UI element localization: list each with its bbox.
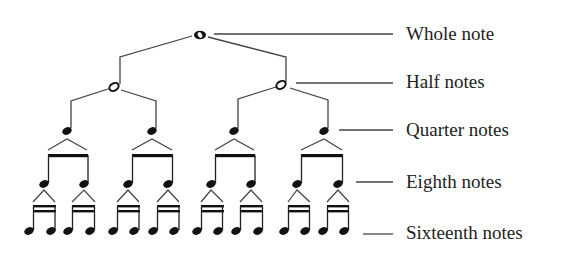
sixteenth-note-beams bbox=[33, 205, 349, 212]
eighth-note-stems bbox=[49, 155, 343, 183]
label-whole-note: Whole note bbox=[406, 24, 494, 43]
connector-lines bbox=[71, 36, 328, 128]
label-sixteenth-notes: Sixteenth notes bbox=[406, 223, 523, 242]
label-half-notes: Half notes bbox=[406, 72, 485, 91]
sixteenth-note-triangles bbox=[33, 190, 349, 202]
note-value-tree-diagram: Whole note Half notes Quarter notes Eigh… bbox=[0, 0, 564, 255]
pointer-lines bbox=[214, 34, 393, 234]
half-note-icon bbox=[108, 81, 120, 92]
eighth-note-heads bbox=[38, 179, 344, 190]
quarter-notes bbox=[61, 126, 330, 137]
eighth-note-beams bbox=[48, 154, 343, 157]
label-quarter-notes: Quarter notes bbox=[406, 120, 509, 139]
eighth-note-triangles bbox=[48, 139, 342, 150]
sixteenth-note-stems bbox=[34, 206, 349, 230]
half-note-icon bbox=[275, 79, 287, 90]
whole-note-icon bbox=[194, 31, 206, 39]
label-eighth-notes: Eighth notes bbox=[406, 172, 502, 191]
